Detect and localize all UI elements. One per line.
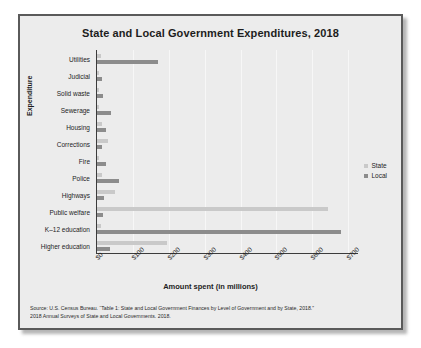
bar-state [97,105,99,109]
y-tick-label: Highways [62,191,90,198]
y-tick-label: K–12 education [45,225,90,232]
legend-label: Local [371,172,387,179]
source-note: Source: U.S. Census Bureau. “Table 1: St… [30,304,391,320]
x-axis-title: Amount spent (in millions) [20,282,401,291]
bar-state [97,139,108,143]
bar-state [97,207,328,211]
source-line-2: 2018 Annual Surveys of State and Local G… [30,312,391,320]
y-tick-label: Utilities [69,55,90,62]
source-line-1: Source: U.S. Census Bureau. “Table 1: St… [30,304,391,312]
bar-group [97,135,358,152]
bar-group [97,50,358,67]
bar-local [97,213,103,217]
legend-swatch-icon [364,164,368,168]
y-tick-label: Solid waste [57,89,90,96]
bar-state [97,224,101,228]
bar-group [97,67,358,84]
bar-local [97,179,119,183]
bar-state [97,122,102,126]
bar-group [97,101,358,118]
bar-group [97,152,358,169]
screenshot-root: State and Local Government Expenditures,… [0,0,421,348]
bar-local [97,145,102,149]
y-tick-label: Housing [66,123,90,130]
bar-state [97,173,102,177]
bar-local [97,94,103,98]
bar-group [97,203,358,220]
x-axis-tick-labels: $0$100$200$300$400$500$600$700 [96,256,358,280]
bar-local [97,230,341,234]
y-tick-label: Public welfare [50,208,90,215]
legend-item[interactable]: State [364,162,387,169]
y-tick-label: Judicial [68,72,90,79]
bar-local [97,196,104,200]
bar-local [97,60,158,64]
bar-state [97,241,167,245]
y-tick-label: Police [72,174,90,181]
legend-swatch-icon [364,174,368,178]
y-tick-label: Sewerage [61,106,90,113]
bar-group [97,84,358,101]
y-tick-label: Fire [79,157,90,164]
bar-local [97,128,106,132]
bar-local [97,111,111,115]
y-axis-category-labels: UtilitiesJudicialSolid wasteSewerageHous… [20,50,94,254]
bar-group [97,169,358,186]
bar-local [97,162,106,166]
y-tick-label: Corrections [57,140,90,147]
plot-area [96,50,358,254]
chart-legend: StateLocal [364,162,387,182]
bar-state [97,54,101,58]
legend-item[interactable]: Local [364,172,387,179]
chart-figure: State and Local Government Expenditures,… [18,14,403,330]
bar-group [97,118,358,135]
bar-rows [97,50,358,253]
bar-state [97,88,99,92]
bar-state [97,71,99,75]
bar-group [97,220,358,237]
plot-area-wrapper [96,50,358,254]
bar-state [97,190,115,194]
bar-group [97,186,358,203]
chart-title: State and Local Government Expenditures,… [20,27,401,39]
bar-local [97,77,102,81]
bar-state [97,156,99,160]
y-tick-label: Higher education [41,242,90,249]
legend-label: State [371,162,386,169]
